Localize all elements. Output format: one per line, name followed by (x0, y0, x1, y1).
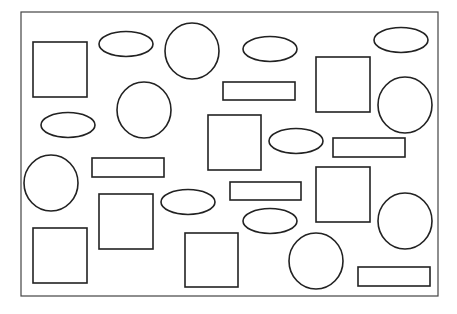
circle-shape (24, 155, 78, 211)
ellipse-shape (41, 113, 95, 138)
circle-shape (378, 193, 432, 249)
figure-frame (21, 12, 438, 296)
square-shape (33, 42, 87, 97)
square-shapes (33, 42, 370, 287)
bar-shape (92, 158, 164, 177)
ellipse-shape (99, 32, 153, 57)
ellipse-shape (161, 190, 215, 215)
circle-shape (117, 82, 171, 138)
square-shape (99, 194, 153, 249)
square-shape (33, 228, 87, 283)
square-shape (185, 233, 238, 287)
circle-shape (378, 77, 432, 133)
square-shape (316, 167, 370, 222)
bar-shape (223, 82, 295, 100)
square-shape (208, 115, 261, 170)
circle-shape (165, 23, 219, 79)
ellipse-shape (243, 209, 297, 234)
ellipse-shape (243, 37, 297, 62)
bar-shape (230, 182, 301, 200)
circle-shape (289, 233, 343, 289)
ellipse-shape (269, 129, 323, 154)
shape-search-figure (0, 0, 457, 314)
bar-shape (358, 267, 430, 286)
bar-shape (333, 138, 405, 157)
frame-border (21, 12, 438, 296)
ellipse-shape (374, 28, 428, 53)
square-shape (316, 57, 370, 112)
